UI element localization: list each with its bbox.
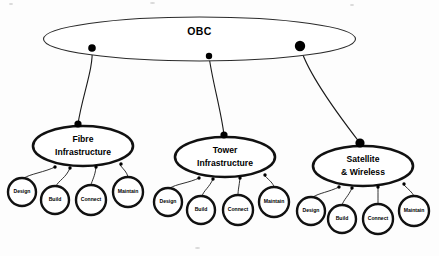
tower-ellipse [175, 137, 275, 177]
edge-satellite-design [313, 187, 339, 197]
diagram-canvas: OBC Fibre Infrastructure [0, 0, 439, 256]
satellite-ellipse [313, 146, 413, 186]
edge-obc-to-fibre [78, 48, 92, 124]
tower-child-dot-maintain [263, 173, 266, 176]
tower-label-line2: Infrastructure [197, 158, 253, 168]
connector-dot-fibre [88, 44, 96, 52]
fibre-parent-dot [74, 120, 81, 127]
leaf-label: Maintain [118, 188, 139, 194]
edge-tower-design [170, 178, 199, 188]
leaf-fibre-build[interactable]: Build [41, 186, 69, 214]
tower-child-dot-build [211, 177, 214, 180]
satellite-child-dot-build [350, 186, 353, 189]
leaf-label: Build [49, 196, 62, 202]
fibre-label-line1: Fibre [72, 134, 93, 144]
edge-tower-build [202, 179, 213, 196]
node-tower-infrastructure[interactable]: Tower Infrastructure [175, 137, 275, 177]
connector-dot-tower [206, 53, 212, 59]
fibre-ellipse [33, 126, 133, 166]
leaf-fibre-maintain[interactable]: Maintain [113, 177, 143, 207]
edge-fibre-design [24, 167, 55, 178]
obc-label: OBC [187, 25, 212, 37]
edge-fibre-connect [91, 167, 96, 185]
leaf-fibre-connect[interactable]: Connect [76, 185, 106, 215]
leaf-tower-design[interactable]: Design [154, 188, 182, 216]
edge-satellite-maintain [404, 185, 414, 196]
leaf-satellite-connect[interactable]: Connect [363, 204, 393, 234]
edge-fibre-maintain [120, 165, 128, 177]
leaf-satellite-maintain[interactable]: Maintain [399, 196, 429, 226]
obc-ellipse [44, 17, 356, 61]
branch-group-tower: Tower Infrastructure Design Build Connec [154, 131, 289, 225]
fibre-child-dot-design [53, 165, 56, 168]
leaf-label: Design [14, 188, 31, 194]
satellite-child-dot-connect [376, 185, 379, 188]
leaf-label: Design [160, 198, 177, 204]
leaf-label: Maintain [264, 198, 285, 204]
leaf-satellite-design[interactable]: Design [297, 197, 325, 225]
leaf-label: Connect [228, 206, 249, 212]
fibre-leaf-edges [24, 165, 128, 186]
leaf-tower-connect[interactable]: Connect [223, 195, 253, 225]
leaf-label: Build [336, 215, 349, 221]
branch-group-fibre: Fibre Infrastructure Design Build Connec [8, 120, 143, 215]
leaf-fibre-design[interactable]: Design [8, 178, 36, 206]
fibre-child-dot-build [68, 166, 71, 169]
edge-satellite-build [342, 188, 352, 205]
leaf-label: Connect [81, 196, 102, 202]
obc-tree-diagram: OBC Fibre Infrastructure [0, 0, 439, 256]
edge-tower-maintain [265, 176, 274, 187]
leaf-tower-maintain[interactable]: Maintain [259, 187, 289, 217]
node-fibre-infrastructure[interactable]: Fibre Infrastructure [33, 126, 133, 166]
connector-dot-satellite [295, 41, 305, 51]
satellite-label-line2: & Wireless [341, 167, 385, 177]
tower-label-line1: Tower [213, 145, 238, 155]
fibre-child-dot-connect [94, 165, 97, 168]
branch-group-satellite: Satellite & Wireless Design Build Connec [297, 138, 429, 234]
edge-obc-to-satellite [300, 46, 360, 143]
satellite-child-dot-design [337, 185, 340, 188]
satellite-leaf-edges [313, 185, 414, 205]
leaf-satellite-build[interactable]: Build [328, 205, 356, 233]
node-obc[interactable]: OBC [44, 17, 356, 61]
tower-child-dot-connect [238, 176, 241, 179]
leaf-label: Design [303, 207, 320, 213]
satellite-parent-dot [355, 138, 364, 147]
leaf-label: Maintain [404, 207, 425, 213]
leaf-label: Connect [368, 215, 389, 221]
edge-tower-connect [238, 178, 240, 195]
edge-obc-to-tower [209, 56, 224, 135]
tower-parent-dot [220, 131, 227, 138]
fibre-label-line2: Infrastructure [55, 147, 111, 157]
satellite-label-line1: Satellite [347, 154, 380, 164]
edge-fibre-build [56, 168, 70, 186]
fibre-child-dot-maintain [119, 162, 122, 165]
satellite-child-dot-maintain [402, 182, 405, 185]
leaf-label: Build [195, 206, 208, 212]
tower-leaf-edges [170, 176, 274, 196]
node-satellite-wireless[interactable]: Satellite & Wireless [313, 146, 413, 186]
leaf-tower-build[interactable]: Build [187, 196, 215, 224]
tower-child-dot-design [197, 176, 200, 179]
